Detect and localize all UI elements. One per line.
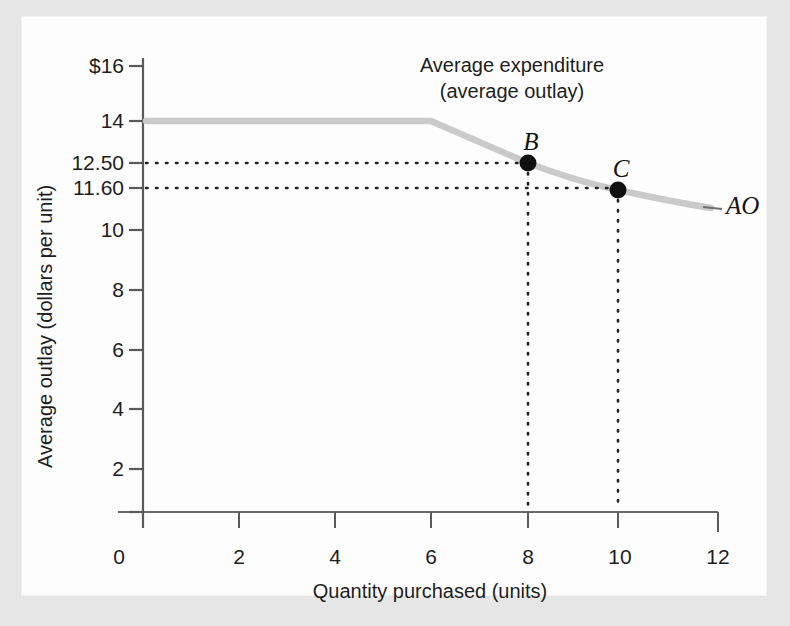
y-tick-label-16: $16 bbox=[20, 54, 124, 78]
point-label-b: B bbox=[523, 128, 538, 156]
chart-plot-area bbox=[0, 0, 790, 626]
figure-root: Average expenditure (average outlay) $16… bbox=[0, 0, 790, 626]
chart-title-line-1: Average expenditure bbox=[420, 54, 604, 76]
x-tick-label-6: 6 bbox=[425, 545, 437, 569]
y-axis-title: Average outlay (dollars per unit) bbox=[34, 185, 57, 468]
x-tick-label-8: 8 bbox=[522, 545, 534, 569]
x-tick-label-10: 10 bbox=[608, 545, 631, 569]
x-axis-title: Quantity purchased (units) bbox=[313, 580, 548, 603]
x-tick-label-4: 4 bbox=[329, 545, 341, 569]
y-tick-label-14: 14 bbox=[20, 109, 124, 133]
y-axis-ticks bbox=[129, 66, 143, 512]
x-tick-label-0: 0 bbox=[113, 545, 125, 569]
data-point-c bbox=[610, 182, 627, 199]
chart-title: Average expenditure (average outlay) bbox=[420, 52, 604, 104]
x-tick-label-12: 12 bbox=[706, 545, 729, 569]
chart-title-line-2: (average outlay) bbox=[420, 78, 604, 104]
x-tick-label-2: 2 bbox=[233, 545, 245, 569]
guide-lines bbox=[146, 163, 618, 510]
data-point-b bbox=[520, 155, 537, 172]
x-axis-ticks bbox=[143, 500, 618, 528]
y-tick-label-1250: 12.50 bbox=[20, 151, 124, 175]
point-label-c: C bbox=[613, 155, 630, 183]
curve-label-ao: AO bbox=[726, 192, 759, 220]
